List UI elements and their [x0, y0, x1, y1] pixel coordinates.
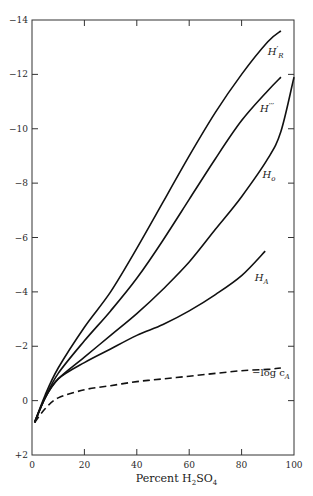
- y-tick-label: −14: [9, 15, 28, 25]
- x-label-sub2: 4: [213, 479, 217, 487]
- x-label-text: Percent H: [136, 472, 192, 485]
- y-tick-label: +2: [15, 450, 28, 460]
- curves: [35, 31, 294, 423]
- x-tick-label: 20: [79, 460, 91, 470]
- acidity-function-chart: −14−12−10−8−6−4−20+2020406080100 H′RH′′′…: [0, 0, 313, 496]
- curve-hr: [35, 31, 281, 423]
- x-tick-label: 0: [29, 460, 35, 470]
- y-tick-label: −8: [15, 178, 29, 188]
- y-tick-label: −4: [15, 287, 29, 297]
- y-tick-label: −10: [9, 124, 28, 134]
- plot-frame: [32, 20, 294, 455]
- curve-label: H′R: [267, 44, 285, 60]
- curve-logca: [35, 368, 281, 422]
- x-axis-label: Percent H2SO4: [0, 472, 313, 487]
- curve-label: H′′′: [259, 101, 274, 114]
- plot-border: [32, 20, 294, 455]
- x-tick-label: 60: [183, 460, 195, 470]
- x-tick-label: 40: [131, 460, 143, 470]
- y-tick-label: −6: [15, 233, 29, 243]
- x-label-text-mid: SO: [196, 472, 213, 485]
- y-tick-label: 0: [22, 396, 28, 406]
- x-tick-label: 80: [236, 460, 248, 470]
- curve-label: HA: [254, 272, 269, 286]
- curve-label: Ho: [262, 169, 276, 183]
- y-tick-label: −12: [9, 69, 28, 79]
- curve-ha: [35, 251, 266, 422]
- curve-label: −log cA: [252, 367, 290, 381]
- y-tick-label: −2: [15, 341, 28, 351]
- curve-labels: H′RH′′′HoHA−log cA: [252, 44, 290, 381]
- x-tick-label: 100: [285, 460, 302, 470]
